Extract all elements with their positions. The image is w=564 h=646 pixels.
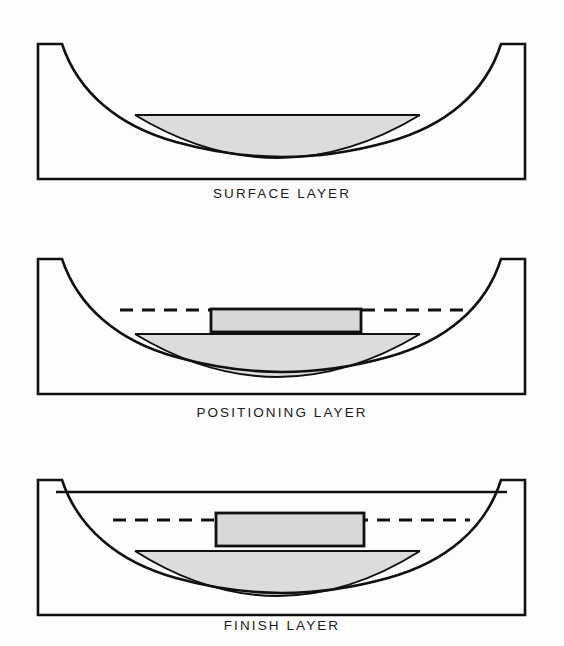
workpiece-block-positioning — [211, 309, 361, 332]
panel-caption-positioning-layer: POSITIONING LAYER — [0, 405, 564, 420]
layer-diagram-figure: SURFACE LAYER POSITIONING LAYER — [0, 0, 564, 646]
panel-surface-layer: SURFACE LAYER — [0, 0, 564, 215]
panel-caption-surface-layer: SURFACE LAYER — [0, 186, 564, 201]
surface-layer-drawing — [0, 0, 564, 190]
workpiece-block-finish — [216, 513, 364, 546]
panel-positioning-layer: POSITIONING LAYER — [0, 215, 564, 436]
finish-layer-drawing — [0, 436, 564, 626]
positioning-layer-drawing — [0, 215, 564, 405]
panel-caption-finish-layer: FINISH LAYER — [0, 618, 564, 633]
panel-finish-layer: FINISH LAYER — [0, 436, 564, 646]
